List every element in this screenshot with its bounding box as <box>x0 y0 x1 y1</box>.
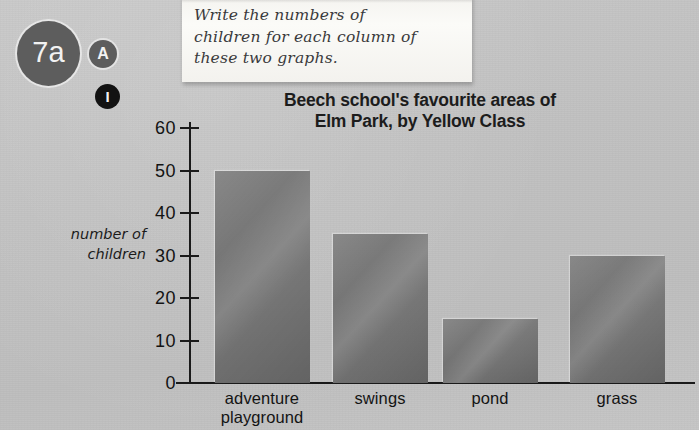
bar-chart: 60 50 40 30 20 10 0 number of children a… <box>0 0 699 430</box>
y-tick-label-10: 10 <box>124 332 176 350</box>
bar-pond <box>443 319 538 383</box>
y-tick-label-60: 60 <box>124 119 176 137</box>
y-axis-label: number of children <box>38 224 146 264</box>
y-tick-50 <box>180 170 199 172</box>
bar-fill <box>570 256 665 384</box>
y-tick-60 <box>180 127 199 129</box>
worksheet-page: 7a A I Write the numbers of children for… <box>0 0 699 430</box>
y-tick-0 <box>180 382 199 384</box>
y-tick-label-50: 50 <box>124 162 176 180</box>
bar-fill <box>333 234 428 383</box>
bar-swings <box>333 234 428 383</box>
y-tick-40 <box>180 212 199 214</box>
bar-grass <box>570 256 665 384</box>
x-label-grass: grass <box>542 389 692 408</box>
bar-adventure-playground <box>215 171 310 384</box>
y-tick-10 <box>180 340 199 342</box>
y-tick-20 <box>180 297 199 299</box>
y-axis-line <box>189 122 191 384</box>
y-tick-label-0: 0 <box>124 374 176 392</box>
y-tick-label-40: 40 <box>124 204 176 222</box>
y-tick-label-20: 20 <box>124 289 176 307</box>
y-tick-30 <box>180 255 199 257</box>
bar-fill <box>443 319 538 383</box>
bar-fill <box>215 171 310 384</box>
